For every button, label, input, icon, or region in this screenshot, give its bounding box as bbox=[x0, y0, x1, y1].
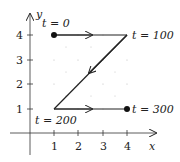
parametric-path-diagram: 1 2 3 4 4 3 2 1 x y t = 0 t = 100 t = 20… bbox=[0, 0, 180, 162]
y-tick-1: 1 bbox=[16, 103, 23, 116]
y-tick-4: 4 bbox=[16, 29, 23, 42]
x-tick-4: 4 bbox=[124, 140, 131, 153]
x-tick-3: 3 bbox=[100, 140, 107, 153]
x-tick-2: 2 bbox=[75, 140, 82, 153]
x-axis-label: x bbox=[149, 140, 156, 153]
start-point bbox=[51, 32, 57, 38]
label-t300: t = 300 bbox=[132, 103, 174, 116]
label-t100: t = 100 bbox=[132, 29, 174, 42]
path bbox=[54, 35, 127, 109]
x-tick-1: 1 bbox=[51, 140, 58, 153]
end-point bbox=[124, 106, 130, 112]
y-tick-3: 3 bbox=[16, 54, 23, 67]
label-t0: t = 0 bbox=[42, 17, 70, 30]
label-t200: t = 200 bbox=[35, 114, 77, 127]
y-tick-2: 2 bbox=[16, 78, 23, 91]
